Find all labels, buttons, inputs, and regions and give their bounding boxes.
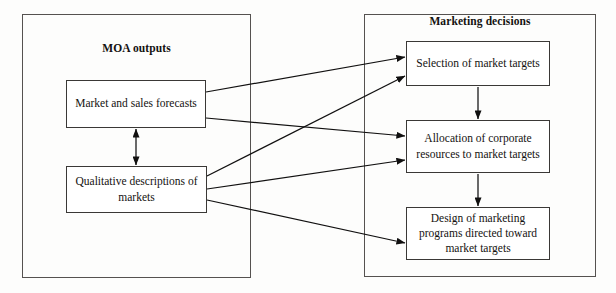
node-qualitative-descriptions-of-markets[interactable]: Qualitative descriptions of markets	[66, 166, 207, 213]
group-title-marketing-decisions: Marketing decisions	[364, 15, 596, 27]
group-title-moa-outputs: MOA outputs	[22, 42, 251, 54]
node-allocation-of-corporate-resources[interactable]: Allocation of corporate resources to mar…	[406, 120, 550, 173]
node-selection-of-market-targets[interactable]: Selection of market targets	[406, 41, 550, 86]
diagram-canvas: MOA outputs Marketing decisions Market a…	[0, 0, 616, 293]
node-market-and-sales-forecasts[interactable]: Market and sales forecasts	[66, 80, 206, 128]
node-design-of-marketing-programs[interactable]: Design of marketing programs directed to…	[406, 207, 550, 260]
